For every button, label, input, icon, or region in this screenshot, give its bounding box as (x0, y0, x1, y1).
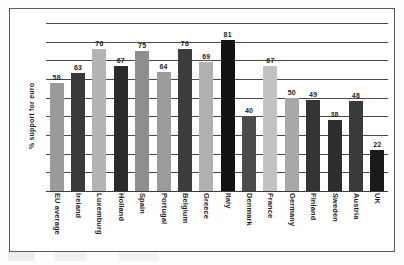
bar-slot: 69 (199, 23, 213, 191)
x-axis-label: Ireland (67, 193, 88, 251)
bar-value-label: 38 (330, 111, 338, 118)
bar-value-label: 40 (245, 107, 253, 114)
x-axis-label-text: Ireland (74, 193, 83, 218)
x-axis-label-text: EU average (52, 193, 61, 235)
x-axis-label: Italy (217, 193, 238, 251)
bar-value-label: 76 (95, 40, 103, 47)
x-axis-label-text: Austria (351, 193, 360, 220)
x-axis-label: Sweden (324, 193, 345, 251)
bar-slot: 67 (114, 23, 128, 191)
bar-value-label: 22 (373, 141, 381, 148)
x-axis-label: EU average (46, 193, 67, 251)
x-axis-label-text: Germany (287, 193, 296, 226)
bar-value-label: 63 (74, 64, 82, 71)
bar-value-label: 67 (117, 57, 125, 64)
bar-slot: 63 (71, 23, 85, 191)
bar-slot: 22 (370, 23, 384, 191)
scan-artifact (8, 252, 398, 261)
x-axis-label-text: Belgium (180, 193, 189, 223)
bar-value-label: 50 (288, 89, 296, 96)
x-axis-label-text: Italy (223, 193, 232, 209)
x-axis-label-text: Finland (309, 193, 318, 220)
bar[interactable] (328, 120, 342, 191)
x-axis-label-text: Sweden (330, 193, 339, 222)
bar-slot: 76 (92, 23, 106, 191)
bar[interactable] (178, 49, 192, 191)
bar[interactable] (349, 101, 363, 191)
bar-slot: 76 (178, 23, 192, 191)
bar-slot: 38 (328, 23, 342, 191)
x-axis-label: UK (367, 193, 388, 251)
bar-value-label: 48 (352, 92, 360, 99)
bar-value-label: 75 (138, 42, 146, 49)
bar[interactable] (71, 73, 85, 191)
bar-value-label: 76 (181, 40, 189, 47)
bar-value-label: 64 (159, 63, 167, 70)
x-axis-label: Belgium (174, 193, 195, 251)
bar-series: 58637667756476698140675049384822 (46, 23, 388, 191)
x-axis-label-text: UK (373, 193, 382, 204)
x-axis-label: Greece (196, 193, 217, 251)
bar[interactable] (263, 66, 277, 191)
bar-slot: 48 (349, 23, 363, 191)
bar-value-label: 69 (202, 53, 210, 60)
bar-slot: 75 (135, 23, 149, 191)
bar[interactable] (242, 116, 256, 191)
x-axis-label-text: Holland (116, 193, 125, 221)
bar-slot: 50 (285, 23, 299, 191)
x-axis-label-text: France (266, 193, 275, 218)
bar[interactable] (114, 66, 128, 191)
x-axis-label: Holland (110, 193, 131, 251)
x-axis-label: Portugal (153, 193, 174, 251)
x-axis-labels: EU averageIrelandLuxemburgHollandSpainPo… (46, 193, 388, 251)
bar[interactable] (285, 98, 299, 191)
x-axis-label: Spain (132, 193, 153, 251)
bar-slot: 67 (263, 23, 277, 191)
x-axis-label-text: Luxemburg (95, 193, 104, 235)
bar-slot: 81 (221, 23, 235, 191)
x-axis-label: Austria (345, 193, 366, 251)
bar[interactable] (370, 150, 384, 191)
bar[interactable] (50, 83, 64, 191)
x-axis-label: France (260, 193, 281, 251)
bar[interactable] (221, 40, 235, 191)
x-axis-label: Denmark (238, 193, 259, 251)
x-axis-label-text: Spain (138, 193, 147, 214)
bar-value-label: 81 (224, 31, 232, 38)
plot-area: 58637667756476698140675049384822 (46, 23, 388, 191)
chart-frame: % support for euro 586376677564766981406… (9, 8, 395, 252)
x-axis-label: Germany (281, 193, 302, 251)
y-axis-title-text: % support for euro (28, 83, 35, 149)
x-axis-label-text: Greece (202, 193, 211, 219)
x-axis-label: Luxemburg (89, 193, 110, 251)
bar[interactable] (306, 100, 320, 191)
bar-slot: 64 (157, 23, 171, 191)
bar-value-label: 58 (53, 74, 61, 81)
x-axis-label-text: Denmark (245, 193, 254, 226)
bar-slot: 58 (50, 23, 64, 191)
y-axis-title: % support for euro (24, 61, 38, 171)
bar[interactable] (135, 51, 149, 191)
bar-slot: 40 (242, 23, 256, 191)
bar[interactable] (92, 49, 106, 191)
bar-value-label: 67 (266, 57, 274, 64)
x-axis-label: Finland (303, 193, 324, 251)
x-axis-label-text: Portugal (159, 193, 168, 224)
bar-value-label: 49 (309, 91, 317, 98)
scanned-page: % support for euro 586376677564766981406… (0, 0, 404, 265)
bar[interactable] (199, 62, 213, 191)
bar-slot: 49 (306, 23, 320, 191)
bar[interactable] (157, 72, 171, 191)
